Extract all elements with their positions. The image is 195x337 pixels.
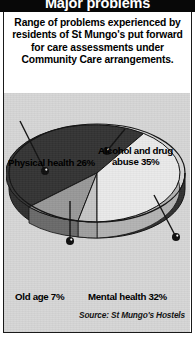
label-alcohol-and-drug-abuse: Alcohol and drug abuse 35% <box>98 145 190 167</box>
infographic-frame: Range of problems experienced by residen… <box>3 11 192 333</box>
label-alcohol-line-2: abuse 35% <box>98 156 190 167</box>
infographic-card: Major problems Range of problems experie… <box>0 0 195 337</box>
label-alcohol-line-1: Alcohol and drug <box>98 145 173 156</box>
marker-dot-old-age <box>66 237 74 245</box>
marker-dot-mental-health <box>172 233 180 241</box>
label-physical-health: Physical health 26% <box>8 157 95 168</box>
label-old-age: Old age 7% <box>15 291 64 302</box>
marker-dot-physical-health <box>41 167 49 175</box>
deck-description: Range of problems experienced by residen… <box>4 12 191 73</box>
pie-chart-panel: Physical health 26% Alcohol and drug abu… <box>4 93 190 332</box>
page-title: Major problems <box>0 0 195 12</box>
source-attribution: Source: St Mungo's Hostels <box>79 310 185 320</box>
pie-chart-3d <box>6 115 188 245</box>
label-mental-health: Mental health 32% <box>88 291 167 302</box>
